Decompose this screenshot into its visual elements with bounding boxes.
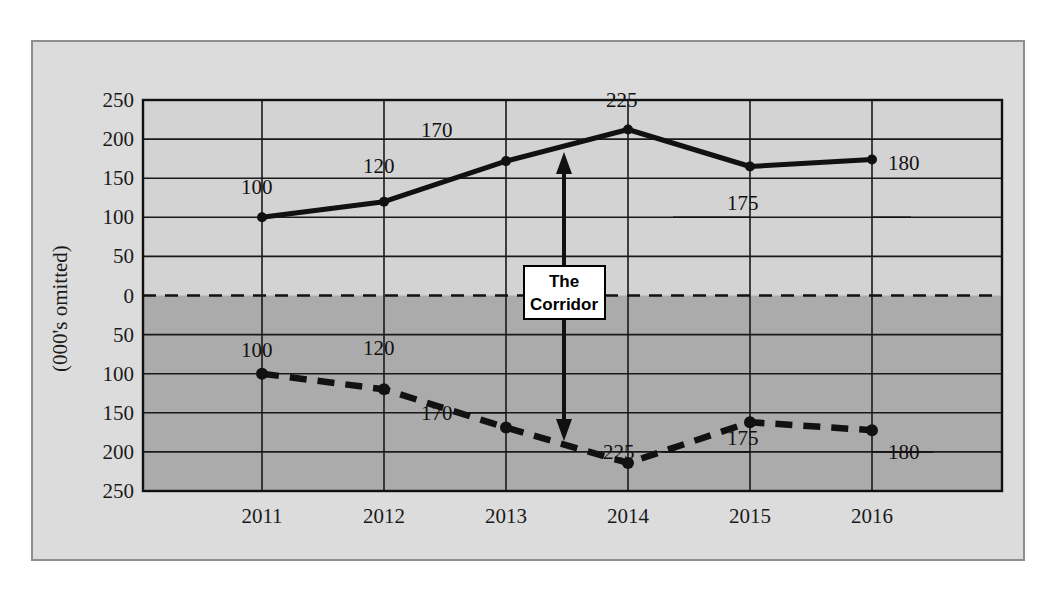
upper-label-2013: 170 [421,118,453,142]
chart-card-frame: 250 200 150 100 50 0 50 100 150 200 250 … [31,40,1025,561]
ytick-bot-150: 150 [103,401,135,425]
xtick-2014: 2014 [607,504,650,528]
x-axis-tick-labels: 2011 2012 2013 2014 2015 2016 [241,504,893,528]
plot-band-lower [143,296,1002,492]
ytick-top-50: 50 [113,244,134,268]
upper-label-2014: 225 [606,88,638,112]
xtick-2011: 2011 [241,504,282,528]
lower-label-2011: 100 [241,338,273,362]
upper-label-2012: 120 [363,154,395,178]
ytick-bot-200: 200 [103,440,135,464]
ytick-top-150: 150 [103,166,135,190]
lower-label-2014: 225 [603,440,635,464]
xtick-2013: 2013 [485,504,527,528]
xtick-2016: 2016 [851,504,893,528]
lower-label-2015: 175 [727,426,759,450]
y-axis-tick-labels: 250 200 150 100 50 0 50 100 150 200 250 [103,88,135,503]
xtick-2015: 2015 [729,504,771,528]
ytick-zero: 0 [124,284,135,308]
ytick-bot-50: 50 [113,323,134,347]
corridor-callout-line1: The [549,272,579,291]
lower-label-2013: 170 [421,401,453,425]
lower-label-2016: 180 [888,440,920,464]
corridor-callout-line2: Corridor [530,295,598,314]
ytick-top-250: 250 [103,88,135,112]
chart-page: 250 200 150 100 50 0 50 100 150 200 250 … [0,0,1052,595]
corridor-callout: The Corridor [524,266,605,319]
ytick-top-200: 200 [103,127,135,151]
ytick-top-100: 100 [103,205,135,229]
upper-label-2016: 180 [888,151,920,175]
lower-label-2012: 120 [363,336,395,360]
y-axis-title: (000's omitted) [48,245,72,372]
corridor-line-chart: 250 200 150 100 50 0 50 100 150 200 250 … [33,42,1023,559]
upper-label-2015: 175 [727,191,759,215]
ytick-bot-100: 100 [103,362,135,386]
xtick-2012: 2012 [363,504,405,528]
ytick-bot-250: 250 [103,479,135,503]
upper-label-2011: 100 [241,175,273,199]
